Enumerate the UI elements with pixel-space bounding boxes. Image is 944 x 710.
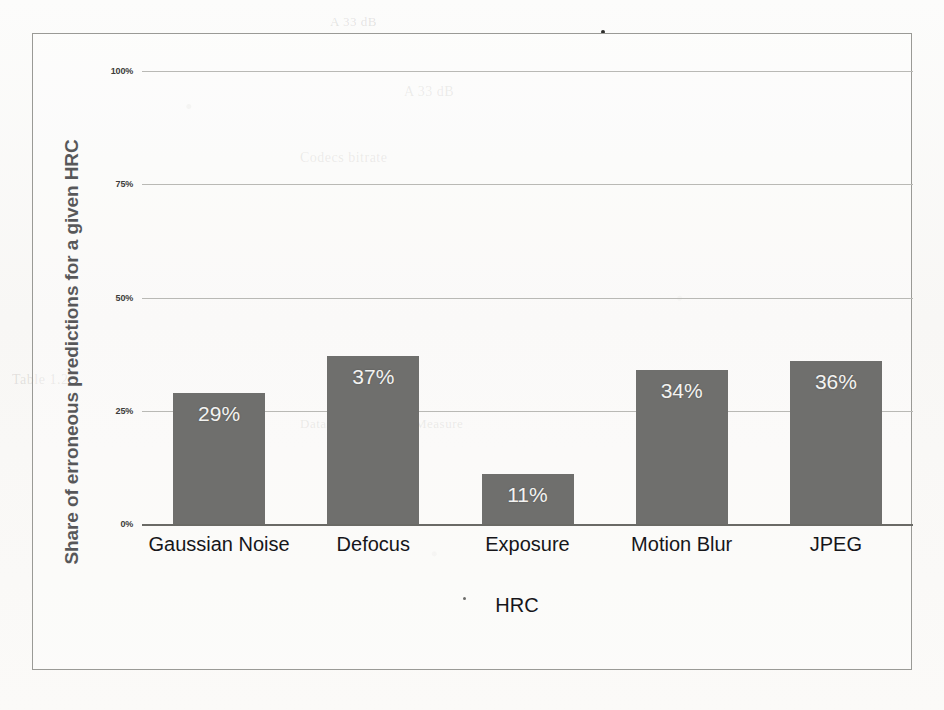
y-tick-label: 50% (116, 293, 133, 303)
y-tick-label: 0% (120, 519, 133, 529)
x-tick-label: Motion Blur (631, 533, 732, 556)
bar-group: 36%JPEG (790, 71, 882, 524)
bar-group: 37%Defocus (327, 71, 419, 524)
plot-area: 100%75%50%25%0% 29%Gaussian Noise37%Defo… (142, 71, 913, 524)
bar-value-label: 34% (636, 379, 728, 403)
bar-value-label: 29% (173, 402, 265, 426)
bar-group: 34%Motion Blur (636, 71, 728, 524)
y-tick-label: 75% (116, 179, 133, 189)
bar-value-label: 36% (790, 370, 882, 394)
x-axis-title: HRC (77, 594, 944, 617)
x-tick-label: Exposure (485, 533, 570, 556)
x-tick-label: JPEG (810, 533, 862, 556)
chart-frame: 100%75%50%25%0% 29%Gaussian Noise37%Defo… (32, 33, 912, 670)
bar-value-label: 37% (327, 365, 419, 389)
x-tick-label: Gaussian Noise (149, 533, 290, 556)
bar-group: 29%Gaussian Noise (173, 71, 265, 524)
x-tick-label: Defocus (337, 533, 410, 556)
bar-value-label: 11% (482, 483, 574, 507)
y-tick-label: 100% (111, 66, 133, 76)
x-axis-baseline: 0% (142, 524, 913, 526)
y-tick-label: 25% (116, 406, 133, 416)
bar-series: 29%Gaussian Noise37%Defocus11%Exposure34… (142, 71, 913, 524)
bar-group: 11%Exposure (482, 71, 574, 524)
